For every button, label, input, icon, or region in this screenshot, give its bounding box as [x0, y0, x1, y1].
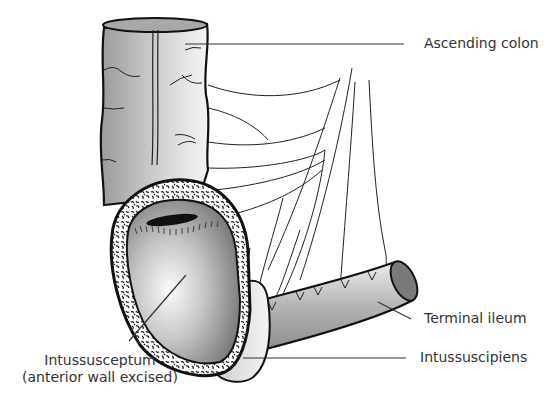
label-terminal-ileum: Terminal ileum: [424, 310, 527, 327]
label-intussusceptum: Intussusceptum (anterior wall excised): [18, 352, 182, 386]
label-ascending-colon: Ascending colon: [424, 35, 539, 52]
label-intussusceptum-line2: (anterior wall excised): [18, 369, 182, 386]
ascending-colon: [101, 18, 209, 205]
label-intussuscipiens: Intussuscipiens: [420, 349, 527, 366]
label-intussusceptum-line1: Intussusceptum: [18, 352, 182, 369]
